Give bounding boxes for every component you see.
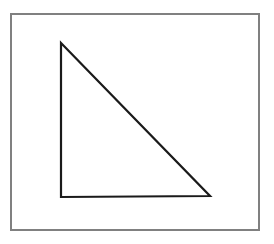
figure-canvas (0, 0, 274, 244)
figure-svg (0, 0, 274, 244)
